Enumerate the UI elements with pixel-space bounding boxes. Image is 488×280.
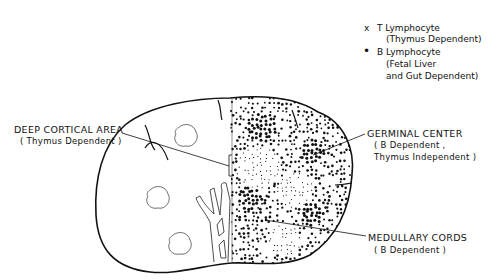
- b-lymphocyte-mark: [353, 191, 355, 193]
- b-lymphocyte-mark: [243, 194, 246, 197]
- b-lymphocyte-mark: [316, 126, 318, 128]
- b-lymphocyte-mark: [340, 173, 342, 175]
- t-lymphocyte-mark: [277, 174, 278, 175]
- b-lymphocyte-mark: [261, 220, 264, 223]
- b-lymphocyte-mark: [353, 179, 356, 182]
- b-lymphocyte-mark: [348, 215, 351, 218]
- b-lymphocyte-mark: [243, 110, 245, 112]
- b-lymphocyte-mark: [320, 232, 322, 234]
- t-lymphocyte-mark: [295, 190, 296, 191]
- t-lymphocyte-mark: [239, 167, 240, 168]
- b-lymphocyte-mark: [345, 220, 348, 223]
- t-lymphocyte-mark: [245, 170, 246, 171]
- b-lymphocyte-mark: [331, 223, 333, 225]
- b-lymphocyte-mark: [343, 193, 345, 195]
- b-lymphocyte-mark: [332, 174, 334, 176]
- b-lymphocyte-mark: [261, 106, 264, 109]
- b-lymphocyte-mark: [345, 228, 347, 230]
- b-lymphocyte-mark: [331, 203, 333, 205]
- t-lymphocyte-mark: [311, 183, 312, 184]
- b-lymphocyte-mark: [354, 245, 356, 247]
- b-lymphocyte-mark: [303, 208, 306, 211]
- b-lymphocyte-mark: [340, 178, 342, 180]
- b-lymphocyte-mark: [273, 128, 276, 131]
- b-lymphocyte-mark: [247, 145, 249, 147]
- t-lymphocyte-mark: [270, 238, 271, 239]
- t-lymphocyte-mark: [302, 192, 303, 193]
- b-lymphocyte-mark: [322, 137, 325, 140]
- b-lymphocyte-mark: [252, 219, 254, 221]
- b-lymphocyte-mark: [260, 124, 263, 127]
- b-lymphocyte-mark: [319, 144, 322, 147]
- b-lymphocyte-mark: [231, 130, 233, 132]
- b-lymphocyte-mark: [245, 107, 247, 109]
- b-lymphocyte-mark: [352, 115, 355, 118]
- b-lymphocyte-mark: [289, 114, 291, 116]
- t-lymphocyte-mark: [291, 251, 292, 252]
- b-lymphocyte-mark: [335, 172, 337, 174]
- b-lymphocyte-mark: [316, 124, 318, 126]
- b-lymphocyte-mark: [252, 223, 254, 225]
- b-lymphocyte-mark: [315, 236, 317, 238]
- t-lymphocyte-mark: [262, 183, 263, 184]
- b-lymphocyte-mark: [240, 98, 242, 100]
- b-lymphocyte-mark: [265, 240, 267, 242]
- b-lymphocyte-mark: [328, 195, 331, 198]
- b-lymphocyte-mark: [318, 211, 321, 214]
- t-lymphocyte-mark: [290, 229, 291, 230]
- b-lymphocyte-mark: [251, 97, 254, 100]
- t-lymphocyte-mark: [261, 175, 262, 176]
- b-lymphocyte-mark: [277, 143, 279, 145]
- b-lymphocyte-mark: [248, 102, 250, 104]
- b-lymphocyte-mark: [302, 165, 304, 167]
- b-lymphocyte-mark: [307, 237, 309, 239]
- b-lymphocyte-mark: [273, 102, 275, 104]
- b-lymphocyte-mark: [345, 257, 347, 259]
- b-lymphocyte-mark: [340, 102, 342, 104]
- label-germinal-center: GERMINAL CENTER: [367, 128, 463, 139]
- b-lymphocyte-mark: [274, 131, 277, 134]
- t-lymphocyte-mark: [268, 179, 269, 180]
- b-lymphocyte-mark: [324, 250, 327, 253]
- t-lymphocyte-mark: [270, 170, 271, 171]
- b-lymphocyte-mark: [335, 203, 338, 206]
- b-lymphocyte-mark: [327, 122, 329, 124]
- legend-b-detail-1: (Fetal Liver: [386, 59, 436, 70]
- b-lymphocyte-mark: [256, 233, 258, 235]
- t-lymphocyte-mark: [298, 247, 299, 248]
- b-lymphocyte-mark: [322, 202, 325, 205]
- b-lymphocyte-mark: [326, 140, 328, 142]
- b-lymphocyte-mark: [242, 248, 245, 251]
- b-lymphocyte-mark: [319, 263, 322, 266]
- b-lymphocyte-mark: [327, 103, 329, 105]
- b-lymphocyte-mark: [255, 248, 258, 251]
- b-lymphocyte-mark: [318, 241, 320, 243]
- b-lymphocyte-mark: [276, 258, 278, 260]
- b-lymphocyte-mark: [324, 144, 326, 146]
- t-lymphocyte-mark: [264, 179, 265, 180]
- b-lymphocyte-mark: [247, 227, 250, 230]
- t-lymphocyte-mark: [261, 165, 262, 166]
- b-lymphocyte-mark: [332, 135, 334, 137]
- b-lymphocyte-mark: [269, 206, 272, 209]
- b-lymphocyte-mark: [310, 128, 313, 131]
- b-lymphocyte-mark: [339, 232, 342, 235]
- t-lymphocyte-mark: [307, 184, 308, 185]
- t-lymphocyte-mark: [282, 233, 283, 234]
- b-lymphocyte-mark: [323, 219, 325, 221]
- b-lymphocyte-mark: [314, 159, 317, 162]
- b-lymphocyte-mark: [251, 194, 254, 197]
- b-lymphocyte-mark: [270, 111, 272, 113]
- b-lymphocyte-mark: [351, 111, 354, 114]
- b-lymphocyte-mark: [348, 135, 350, 137]
- b-lymphocyte-mark: [305, 102, 307, 104]
- b-lymphocyte-mark: [332, 124, 334, 126]
- b-lymphocyte-mark: [246, 193, 249, 196]
- b-lymphocyte-mark: [343, 178, 345, 180]
- b-lymphocyte-mark: [322, 175, 324, 177]
- b-lymphocyte-mark: [298, 208, 301, 211]
- b-lymphocyte-mark: [315, 130, 318, 133]
- b-lymphocyte-mark: [261, 260, 264, 263]
- b-lymphocyte-mark: [247, 197, 250, 200]
- b-lymphocyte-mark: [267, 195, 270, 198]
